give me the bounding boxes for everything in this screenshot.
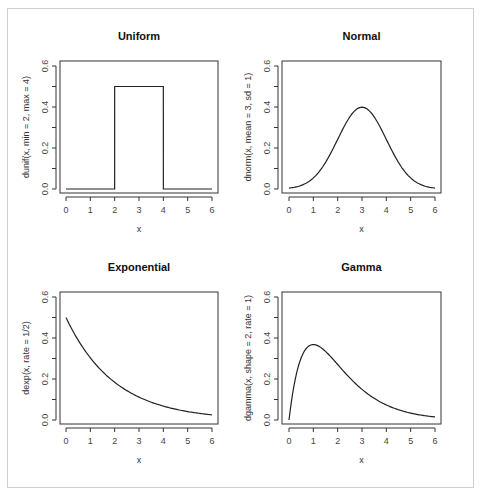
x-tick-label: 6	[432, 205, 437, 215]
x-tick-label: 3	[136, 436, 141, 446]
axis-ticks: 01234560.00.20.40.6	[262, 291, 437, 446]
y-tick-label: 0.6	[40, 291, 50, 304]
density-curve	[66, 87, 212, 190]
x-tick-label: 4	[161, 436, 166, 446]
x-tick-label: 5	[185, 205, 190, 215]
panel-normal: Normal x dnorm(x, mean = 3, sd = 1) 0123…	[243, 30, 441, 234]
density-curve	[289, 345, 435, 420]
y-axis-label: dunif(x, min = 2, max = 4)	[21, 76, 31, 178]
x-tick-label: 5	[408, 436, 413, 446]
y-axis-label: dexp(x, rate = 1/2)	[21, 321, 31, 394]
x-tick-label: 3	[359, 436, 364, 446]
panel-title: Normal	[343, 30, 381, 42]
x-tick-label: 0	[286, 205, 291, 215]
y-tick-label: 0.0	[40, 414, 50, 427]
y-tick-label: 0.4	[262, 332, 272, 345]
axis-ticks: 01234560.00.20.40.6	[40, 60, 214, 215]
plot-box	[60, 292, 218, 424]
x-tick-label: 4	[384, 436, 389, 446]
plot-box	[282, 292, 441, 424]
x-tick-label: 0	[63, 205, 68, 215]
y-tick-label: 0.6	[40, 60, 50, 73]
axis-ticks: 01234560.00.20.40.6	[40, 291, 214, 446]
y-tick-label: 0.6	[262, 60, 272, 73]
x-axis-label: x	[359, 455, 364, 465]
x-tick-label: 5	[408, 205, 413, 215]
x-axis-label: x	[359, 224, 364, 234]
density-curve	[289, 107, 435, 188]
x-tick-label: 0	[286, 436, 291, 446]
x-tick-label: 2	[335, 205, 340, 215]
x-axis-label: x	[137, 455, 142, 465]
y-tick-label: 0.0	[40, 183, 50, 196]
y-tick-label: 0.2	[262, 373, 272, 386]
panel-title: Exponential	[108, 261, 170, 273]
y-tick-label: 0.2	[262, 142, 272, 155]
plot-box	[60, 61, 218, 193]
x-tick-label: 2	[112, 436, 117, 446]
x-tick-label: 4	[161, 205, 166, 215]
x-tick-label: 5	[185, 436, 190, 446]
panel-exponential: Exponential x dexp(x, rate = 1/2) 012345…	[21, 261, 218, 465]
x-tick-label: 3	[359, 205, 364, 215]
panel-title: Gamma	[341, 261, 382, 273]
density-curve	[66, 318, 212, 415]
y-axis-label: dnorm(x, mean = 3, sd = 1)	[243, 73, 253, 182]
y-tick-label: 0.4	[40, 332, 50, 345]
y-tick-label: 0.2	[40, 142, 50, 155]
x-tick-label: 3	[136, 205, 141, 215]
y-tick-label: 0.0	[262, 414, 272, 427]
y-tick-label: 0.4	[262, 101, 272, 114]
x-tick-label: 1	[88, 436, 93, 446]
x-tick-label: 4	[384, 205, 389, 215]
y-tick-label: 0.6	[262, 291, 272, 304]
x-tick-label: 1	[311, 205, 316, 215]
x-tick-label: 6	[209, 205, 214, 215]
distribution-plots: Uniform x dunif(x, min = 2, max = 4) 012…	[0, 0, 482, 496]
y-tick-label: 0.2	[40, 373, 50, 386]
x-tick-label: 2	[112, 205, 117, 215]
plot-box	[282, 61, 441, 193]
x-axis-label: x	[137, 224, 142, 234]
panel-uniform: Uniform x dunif(x, min = 2, max = 4) 012…	[21, 30, 218, 234]
x-tick-label: 6	[209, 436, 214, 446]
x-tick-label: 6	[432, 436, 437, 446]
x-tick-label: 0	[63, 436, 68, 446]
y-tick-label: 0.0	[262, 183, 272, 196]
x-tick-label: 1	[88, 205, 93, 215]
y-tick-label: 0.4	[40, 101, 50, 114]
x-tick-label: 2	[335, 436, 340, 446]
panel-title: Uniform	[118, 30, 160, 42]
y-axis-label: dgamma(x, shape = 2, rate = 1)	[243, 295, 253, 421]
x-tick-label: 1	[311, 436, 316, 446]
panel-gamma: Gamma x dgamma(x, shape = 2, rate = 1) 0…	[243, 261, 441, 465]
axis-ticks: 01234560.00.20.40.6	[262, 60, 437, 215]
